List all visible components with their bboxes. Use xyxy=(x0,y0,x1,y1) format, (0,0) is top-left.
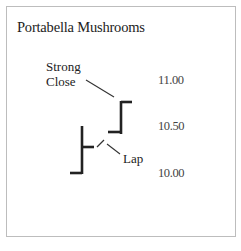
leader-lines xyxy=(86,80,120,154)
ohlc-bar-1 xyxy=(70,126,94,174)
ohlc-chart xyxy=(0,0,241,251)
lap-marker xyxy=(97,140,104,147)
ohlc-bar-2 xyxy=(108,101,132,134)
